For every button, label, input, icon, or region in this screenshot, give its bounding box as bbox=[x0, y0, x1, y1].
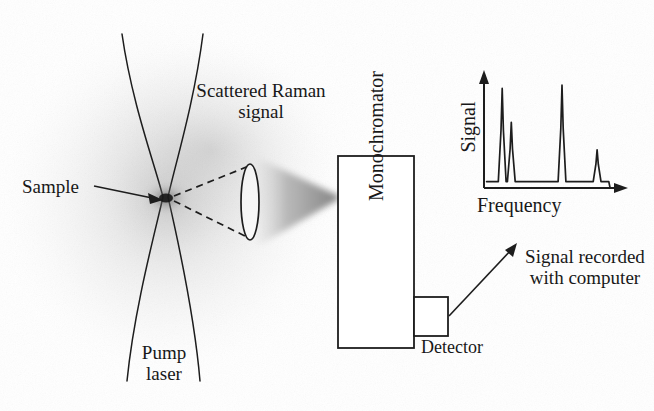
plot-y-axis-label: Signal bbox=[454, 89, 482, 165]
signal-recorded-label: Signal recorded with computer bbox=[516, 246, 654, 289]
plot-y-axis-arrowhead bbox=[479, 70, 489, 84]
spectrum-trace bbox=[487, 85, 610, 188]
scattered-raman-label: Scattered Raman signal bbox=[185, 80, 337, 123]
plot-x-axis-label: Frequency bbox=[477, 194, 561, 216]
pump-laser-label: Pump laser bbox=[112, 342, 216, 385]
monochromator-label: Monochromator bbox=[338, 40, 414, 232]
plot-x-axis-arrowhead bbox=[614, 183, 628, 193]
raman-setup-figure: Sample Pump laser Scattered Raman signal… bbox=[0, 0, 654, 411]
detector-label: Detector bbox=[421, 337, 483, 357]
sample-label: Sample bbox=[22, 176, 79, 197]
